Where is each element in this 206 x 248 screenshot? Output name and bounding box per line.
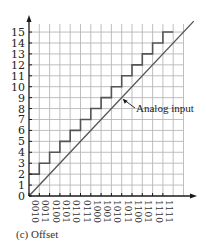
x-tick-label: 1000 [92, 200, 102, 223]
x-tick-label: 1110 [154, 200, 164, 223]
x-tick-label: 0110 [71, 200, 81, 223]
x-tick-label: 0101 [61, 200, 71, 223]
x-tick-label: 1010 [112, 200, 122, 223]
x-tick-label: 0010 [30, 200, 40, 223]
x-tick-label: 1100 [133, 200, 143, 223]
x-tick-label: 1111 [164, 200, 174, 223]
tick-labels: 0123456789101112131415001000110100010101… [11, 26, 174, 223]
x-tick-label: 0011 [40, 200, 50, 223]
annotation-arrow-icon [123, 99, 128, 104]
chart: 0123456789101112131415001000110100010101… [0, 0, 206, 228]
x-tick-label: 0100 [51, 200, 61, 223]
figure-caption: (c) Offset [16, 228, 58, 240]
x-tick-label: 1101 [143, 200, 153, 223]
x-tick-label: 1011 [123, 200, 133, 223]
x-tick-label: 1001 [102, 200, 112, 223]
y-axis-arrow-icon [27, 15, 32, 22]
x-tick-label: 0111 [82, 200, 92, 223]
y-tick-label: 15 [11, 26, 25, 39]
x-axis-arrow-icon [190, 194, 197, 199]
annotation-label: Analog input [136, 102, 194, 114]
